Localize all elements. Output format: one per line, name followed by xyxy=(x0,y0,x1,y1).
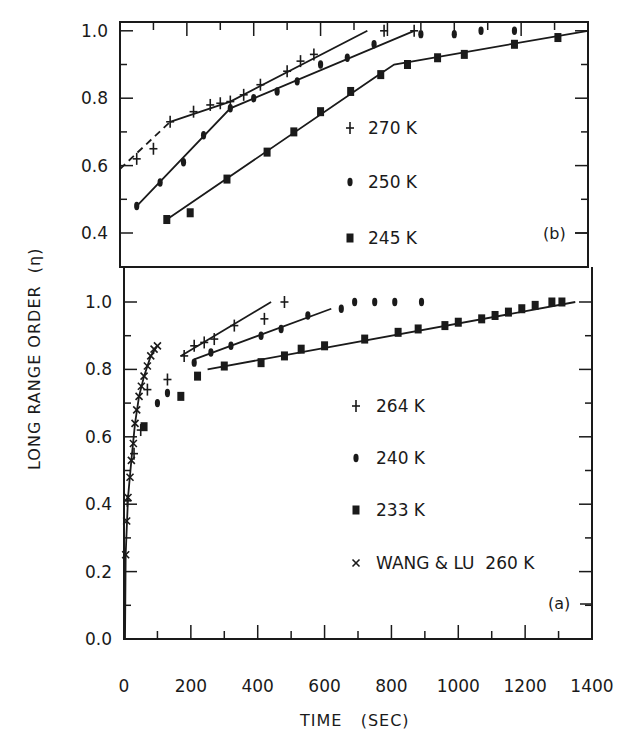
legend-item: 245 K xyxy=(347,228,418,248)
plus-marker xyxy=(346,122,354,134)
fit-line-dashed xyxy=(120,122,170,169)
square-marker xyxy=(404,60,411,69)
plus-marker xyxy=(283,65,291,77)
plus-marker xyxy=(133,153,141,165)
x-tick-label: 800 xyxy=(375,676,407,696)
square-marker xyxy=(434,53,441,62)
square-marker xyxy=(258,358,265,367)
fit-line xyxy=(125,346,157,639)
series-250-k xyxy=(134,27,517,211)
legend-label: 245 K xyxy=(368,228,418,248)
diamond-marker xyxy=(419,298,424,306)
diamond-marker xyxy=(295,77,300,85)
diamond-marker xyxy=(371,40,376,48)
square-marker xyxy=(478,314,485,323)
panel-a-data xyxy=(122,296,575,639)
panel-a: 1.00.80.60.40.20.0 264 K240 K233 KWANG &… xyxy=(85,267,592,649)
panel-b-legend: 270 K250 K245 K xyxy=(346,118,418,248)
x-marker xyxy=(353,560,360,567)
diamond-marker xyxy=(155,399,160,407)
y-tick-label: 0.4 xyxy=(81,223,108,243)
panel-a-frame xyxy=(124,267,592,639)
diamond-marker xyxy=(339,305,344,313)
square-marker xyxy=(558,298,565,307)
panel-a-legend: 264 K240 K233 KWANG & LU 260 K xyxy=(352,396,535,573)
plus-marker xyxy=(190,106,198,118)
diamond-marker xyxy=(418,30,423,38)
square-marker xyxy=(177,392,184,401)
diamond-marker xyxy=(251,94,256,102)
diamond-marker xyxy=(181,158,186,166)
square-marker xyxy=(141,422,148,431)
series-233-k xyxy=(141,298,576,432)
diamond-marker xyxy=(165,389,170,397)
square-marker xyxy=(290,127,297,136)
square-marker xyxy=(548,298,555,307)
y-tick-label: 0.8 xyxy=(81,88,108,108)
square-marker xyxy=(347,87,354,96)
plus-marker xyxy=(260,313,268,325)
y-tick-label: 0.2 xyxy=(85,562,112,582)
x-tick-label: 200 xyxy=(175,676,207,696)
diamond-marker xyxy=(478,27,483,35)
square-marker xyxy=(281,351,288,360)
legend-item: WANG & LU 260 K xyxy=(353,553,536,573)
panel-b-tag: (b) xyxy=(543,224,566,243)
diamond-marker xyxy=(452,30,457,38)
square-marker xyxy=(377,70,384,79)
square-marker xyxy=(455,318,462,327)
diamond-marker xyxy=(134,202,139,210)
panel-b: 1.00.80.60.4 270 K250 K245 K (b) xyxy=(81,21,588,267)
square-marker xyxy=(221,362,228,371)
square-marker xyxy=(163,215,170,224)
series-wang-lu-260-k xyxy=(122,342,161,639)
plus-marker xyxy=(240,89,248,101)
square-marker xyxy=(505,308,512,317)
x-marker xyxy=(154,342,161,349)
square-marker xyxy=(361,335,368,344)
plus-marker xyxy=(280,296,288,308)
square-marker xyxy=(554,33,561,42)
legend-item: 233 K xyxy=(353,500,426,520)
diamond-marker xyxy=(345,54,350,62)
square-marker xyxy=(321,341,328,350)
plus-marker xyxy=(352,400,360,412)
y-tick-label: 0.0 xyxy=(85,629,112,649)
square-marker xyxy=(518,304,525,313)
square-marker xyxy=(441,321,448,330)
y-tick-label: 1.0 xyxy=(85,292,112,312)
x-axis-title: TIME (SEC) xyxy=(299,711,410,730)
panel-b-data xyxy=(120,25,588,224)
diamond-marker xyxy=(392,298,397,306)
series-264-k xyxy=(123,296,288,507)
x-tick-label: 0 xyxy=(119,676,130,696)
square-marker xyxy=(347,234,354,243)
plus-marker xyxy=(149,143,157,155)
square-marker xyxy=(415,324,422,333)
y-tick-label: 0.6 xyxy=(85,427,112,447)
square-marker xyxy=(194,372,201,381)
diamond-marker xyxy=(352,298,357,306)
legend-label: 250 K xyxy=(368,172,418,192)
y-tick-label: 0.8 xyxy=(85,359,112,379)
square-marker xyxy=(492,311,499,320)
x-tick-label: 1200 xyxy=(504,676,547,696)
square-marker xyxy=(532,301,539,310)
square-marker xyxy=(353,506,360,515)
y-tick-label: 1.0 xyxy=(81,21,108,41)
diamond-marker xyxy=(512,27,517,35)
diamond-marker xyxy=(353,454,358,462)
diamond-marker xyxy=(372,298,377,306)
plus-marker xyxy=(310,48,318,60)
x-tick-label: 1400 xyxy=(570,676,613,696)
x-tick-label: 400 xyxy=(241,676,273,696)
square-marker xyxy=(223,175,230,184)
x-tick-label: 600 xyxy=(308,676,340,696)
panel-a-ticks xyxy=(124,302,592,639)
plus-marker xyxy=(200,336,208,348)
square-marker xyxy=(264,148,271,157)
square-marker xyxy=(461,50,468,59)
y-tick-label: 0.6 xyxy=(81,156,108,176)
plus-marker xyxy=(297,55,305,67)
series-240-k xyxy=(155,298,424,408)
